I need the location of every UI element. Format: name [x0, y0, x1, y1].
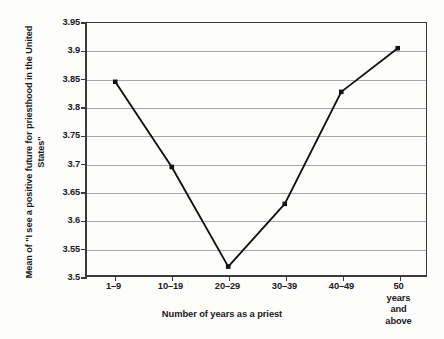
series-polyline	[115, 48, 398, 266]
data-series-line	[87, 23, 426, 275]
y-tick-label: 3.75	[38, 130, 80, 140]
x-tick-label: 10–19	[158, 281, 183, 293]
y-tick-label: 3.9	[38, 45, 80, 55]
y-axis-tick-labels: 3.53.553.63.653.73.753.83.853.93.95	[38, 0, 80, 339]
y-tick-label: 3.8	[38, 102, 80, 112]
data-point-marker	[339, 90, 344, 95]
x-tick-label: 1–9	[106, 281, 121, 293]
data-point-marker	[395, 46, 400, 51]
y-tick-label: 3.65	[38, 187, 80, 197]
y-tick-label: 3.5	[38, 272, 80, 282]
data-point-marker	[226, 264, 231, 269]
plot-area	[85, 22, 427, 277]
x-axis-title: Number of years as a priest	[0, 308, 444, 319]
y-tick-label: 3.85	[38, 74, 80, 84]
y-tick-mark	[81, 277, 87, 278]
x-tick-label: 50 years and above	[384, 281, 413, 327]
y-tick-label: 3.6	[38, 215, 80, 225]
y-tick-label: 3.95	[38, 17, 80, 27]
x-tick-label: 20–29	[215, 281, 240, 293]
data-point-marker	[169, 165, 174, 170]
y-tick-label: 3.7	[38, 159, 80, 169]
x-tick-label: 40–49	[329, 281, 354, 293]
chart-figure: Mean of "I see a positive future for pri…	[0, 0, 444, 339]
x-tick-label: 30–39	[272, 281, 297, 293]
data-point-marker	[113, 80, 118, 85]
y-tick-label: 3.55	[38, 244, 80, 254]
data-point-marker	[282, 202, 287, 207]
